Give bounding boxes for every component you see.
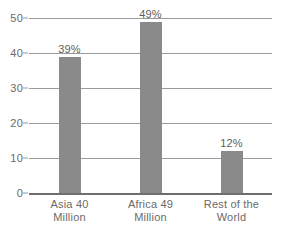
y-tick-label: 40 bbox=[10, 47, 23, 59]
y-tick-label: 20 bbox=[10, 117, 23, 129]
y-tick-label: 50 bbox=[10, 12, 23, 24]
axis-baseline bbox=[29, 193, 272, 195]
x-axis-label-line: World bbox=[189, 211, 275, 224]
y-tick-mark bbox=[23, 193, 28, 194]
x-axis-label-line: Million bbox=[108, 211, 194, 224]
bar: 39% bbox=[59, 57, 81, 194]
y-tick-mark bbox=[23, 53, 28, 54]
x-axis-label-line: Rest of the bbox=[189, 198, 275, 211]
y-tick-mark bbox=[23, 158, 28, 159]
x-axis-label: Asia 40Million bbox=[27, 198, 113, 224]
bar-value-label: 12% bbox=[220, 137, 243, 149]
bar-value-label: 49% bbox=[139, 8, 162, 20]
plot-area: 01020304050 39%49%12% Asia 40MillionAfri… bbox=[29, 18, 272, 193]
x-axis-label: Africa 49Million bbox=[108, 198, 194, 224]
x-axis-label-line: Million bbox=[27, 211, 113, 224]
y-tick-mark bbox=[23, 88, 28, 89]
y-tick-mark bbox=[23, 123, 28, 124]
y-tick-label: 0 bbox=[17, 187, 23, 199]
bar: 49% bbox=[140, 22, 162, 194]
x-axis-label-line: Asia 40 bbox=[27, 198, 113, 211]
bar-value-label: 39% bbox=[58, 43, 81, 55]
y-tick-mark bbox=[23, 18, 28, 19]
y-tick-label: 10 bbox=[10, 152, 23, 164]
y-tick-label: 30 bbox=[10, 82, 23, 94]
x-axis-label: Rest of theWorld bbox=[189, 198, 275, 224]
bar: 12% bbox=[221, 151, 243, 193]
x-axis-label-line: Africa 49 bbox=[108, 198, 194, 211]
bar-chart: 01020304050 39%49%12% Asia 40MillionAfri… bbox=[0, 0, 281, 233]
